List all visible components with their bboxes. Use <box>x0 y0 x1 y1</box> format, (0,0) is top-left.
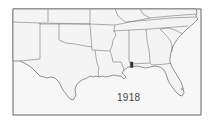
lake-icon <box>181 88 183 90</box>
location-marker <box>131 62 134 68</box>
map-figure <box>0 0 212 122</box>
year-label: 1918 <box>117 92 140 103</box>
